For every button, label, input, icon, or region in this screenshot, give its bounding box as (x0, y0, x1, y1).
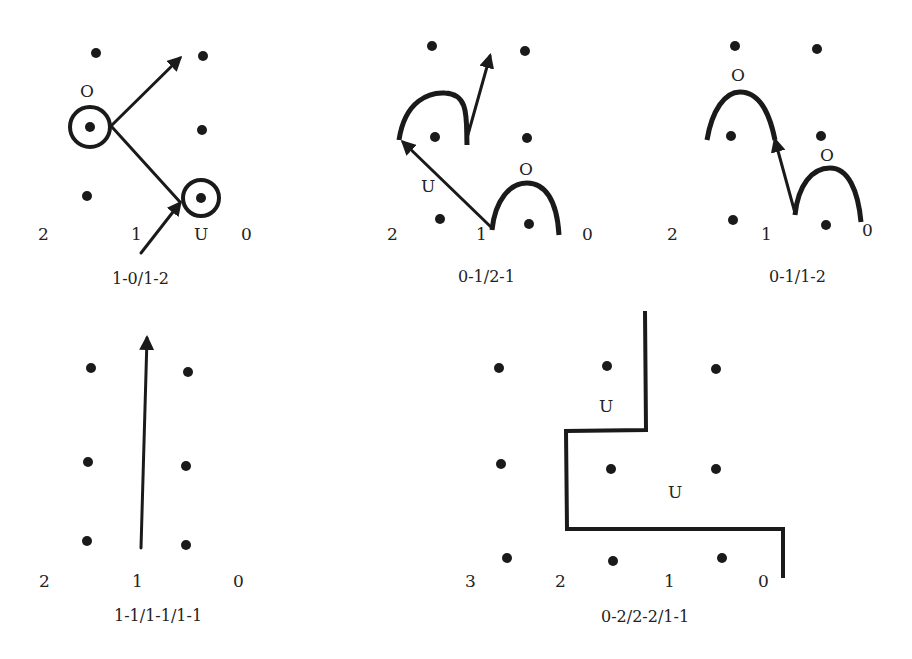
position-label: 2 (555, 571, 566, 591)
marker-o: O (731, 65, 745, 85)
position-label: 1 (131, 224, 142, 244)
grid-dot (430, 132, 440, 142)
position-label: 1 (476, 224, 487, 244)
grid-dot (83, 457, 93, 467)
grid-dot (606, 464, 616, 474)
panel-caption: 0-1/1-2 (769, 267, 826, 286)
arrow-icon (141, 338, 147, 548)
grid-dot (524, 219, 534, 229)
position-label: 2 (667, 224, 678, 244)
position-label: 0 (233, 571, 244, 591)
panel-5: U U 3 2 1 0 0-2/2-2/1-1 (465, 311, 783, 626)
grid-dot (821, 220, 831, 230)
grid-dot (816, 131, 826, 141)
position-label: 2 (38, 224, 49, 244)
panel-caption: 1-0/1-2 (112, 269, 169, 288)
panel-caption: 0-2/2-2/1-1 (601, 607, 689, 626)
grid-dot (197, 125, 207, 135)
panel-4: 2 1 0 1-1/1-1/1-1 (39, 338, 244, 625)
grid-dot (82, 191, 92, 201)
step-boundary (566, 311, 783, 578)
grid-dot (728, 215, 738, 225)
arrow-icon (775, 140, 795, 213)
marker-u: U (668, 482, 682, 502)
position-label: 0 (241, 224, 252, 244)
grid-dot (522, 133, 532, 143)
arrow-icon (141, 203, 180, 253)
position-label: 0 (758, 571, 769, 591)
grid-dot (602, 361, 612, 371)
position-label: 0 (862, 220, 873, 240)
grid-dot (717, 553, 727, 563)
marker-o: O (80, 81, 94, 101)
grid-dot (91, 48, 101, 58)
marker-o: O (519, 159, 533, 179)
grid-dot (85, 122, 95, 132)
position-label: U (194, 224, 208, 244)
grid-dot (181, 540, 191, 550)
grid-dot (726, 131, 736, 141)
arc (707, 92, 775, 140)
diagram-canvas: O 2 1 U 0 1-0/1-2 U O 2 1 0 0-1/2-1 O (0, 0, 912, 659)
position-label: 1 (761, 224, 772, 244)
panel-caption: 0-1/2-1 (458, 267, 515, 286)
panel-2: U O 2 1 0 0-1/2-1 (387, 41, 593, 286)
grid-dot (183, 367, 193, 377)
grid-dot (198, 51, 208, 61)
grid-dot (435, 214, 445, 224)
marker-u: U (599, 396, 613, 416)
marker-u: U (421, 176, 435, 196)
arrow-icon (112, 58, 180, 125)
grid-dot (82, 536, 92, 546)
grid-dot (711, 364, 721, 374)
grid-dot (196, 193, 206, 203)
grid-dot (494, 363, 504, 373)
grid-dot (812, 44, 822, 54)
grid-dot (711, 464, 721, 474)
grid-dot (86, 363, 96, 373)
grid-dot (608, 556, 618, 566)
position-label: 2 (39, 571, 50, 591)
position-label: 0 (582, 224, 593, 244)
arrow-icon (467, 56, 490, 138)
grid-dot (502, 553, 512, 563)
panel-3: O O 2 1 0 0-1/1-2 (667, 41, 873, 286)
grid-dot (520, 46, 530, 56)
arrow-icon (403, 142, 492, 228)
grid-dot (427, 41, 437, 51)
panel-1: O 2 1 U 0 1-0/1-2 (38, 48, 252, 288)
position-label: 1 (132, 571, 143, 591)
grid-dot (730, 41, 740, 51)
arc (795, 168, 861, 222)
grid-dot (496, 459, 506, 469)
grid-dot (181, 461, 191, 471)
position-label: 2 (387, 224, 398, 244)
position-label: 3 (465, 571, 476, 591)
marker-o: O (820, 145, 834, 165)
position-label: 1 (664, 571, 675, 591)
arrow-line (112, 127, 180, 202)
panel-caption: 1-1/1-1/1-1 (114, 606, 202, 625)
